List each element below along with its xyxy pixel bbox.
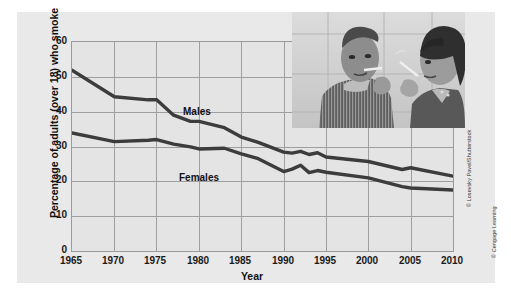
photo-credit: © Losevsky Pavel/Shutterstock (466, 130, 472, 207)
publisher-credit: © Cengage Learning (491, 206, 497, 258)
x-tick-label: 1990 (263, 255, 303, 266)
x-tick-label: 2010 (432, 255, 472, 266)
x-tick-label: 1975 (135, 255, 175, 266)
x-tick-label: 1985 (220, 255, 260, 266)
x-tick-label: 1980 (178, 255, 218, 266)
x-tick-label: 2000 (347, 255, 387, 266)
x-tick-label: 1995 (305, 255, 345, 266)
x-tick-label: 2005 (390, 255, 430, 266)
x-tick-label: 1970 (93, 255, 133, 266)
smokers-photo (292, 12, 465, 128)
figure-panel: Males Females 60 50 40 30 20 10 0 1965 1… (17, 12, 495, 283)
x-tick-label: 1965 (51, 255, 91, 266)
y-axis-title: Percentage of adults (over 18) who smoke (48, 18, 60, 218)
x-axis-title: Year (17, 270, 487, 282)
